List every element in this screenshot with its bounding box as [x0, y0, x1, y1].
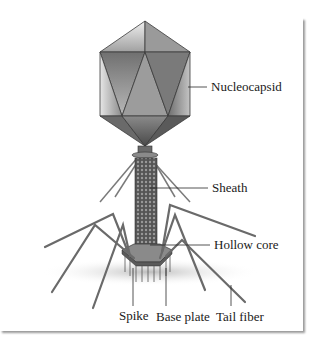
label-hollow-core: Hollow core	[214, 238, 279, 252]
label-sheath: Sheath	[212, 181, 247, 195]
label-spike: Spike	[119, 309, 149, 323]
capsid-head	[100, 21, 190, 146]
bacteriophage-diagram	[0, 0, 318, 347]
tail-sheath	[135, 158, 157, 256]
label-tail-fiber: Tail fiber	[216, 310, 264, 324]
label-nucleocapsid: Nucleocapsid	[211, 80, 282, 94]
label-base-plate: Base plate	[156, 310, 210, 324]
collar	[132, 146, 158, 158]
